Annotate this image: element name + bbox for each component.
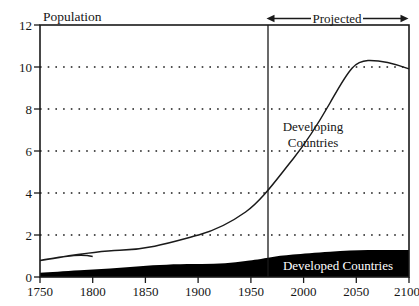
y-axis-title: Population xyxy=(43,9,102,24)
x-tick-label-2100: 2100 xyxy=(394,284,419,299)
developed-countries-label: Developed Countries xyxy=(283,258,393,273)
y-tick-label-0: 0 xyxy=(26,270,33,285)
y-tick-label-8: 8 xyxy=(26,102,33,117)
y-tick-label-12: 12 xyxy=(19,18,32,33)
y-tick-label-10: 10 xyxy=(19,60,32,75)
developing-countries-label-line2: Countries xyxy=(288,135,339,150)
y-tick-marks xyxy=(34,25,40,277)
developing-countries-label: Developing Countries xyxy=(283,119,344,150)
arrow-left-icon xyxy=(267,15,275,22)
x-tick-label-1850: 1850 xyxy=(132,284,158,299)
projected-label: Projected xyxy=(312,11,362,26)
y-tick-label-2: 2 xyxy=(26,228,33,243)
x-tick-label-1900: 1900 xyxy=(185,284,211,299)
developing-countries-label-line1: Developing xyxy=(283,119,344,134)
projected-annotation: Projected xyxy=(267,11,409,26)
x-tick-marks xyxy=(40,277,409,283)
chart-canvas: 12 10 8 6 4 2 0 1750 1800 1850 1900 1950… xyxy=(0,0,419,306)
x-tick-label-1750: 1750 xyxy=(27,284,53,299)
population-chart-figure: 12 10 8 6 4 2 0 1750 1800 1850 1900 1950… xyxy=(0,0,419,306)
arrow-right-icon xyxy=(401,15,409,22)
x-tick-label-2050: 2050 xyxy=(343,284,369,299)
x-tick-label-1800: 1800 xyxy=(80,284,106,299)
y-tick-label-4: 4 xyxy=(26,186,33,201)
x-tick-label-2000: 2000 xyxy=(291,284,317,299)
x-tick-label-1950: 1950 xyxy=(238,284,264,299)
y-tick-label-6: 6 xyxy=(26,144,33,159)
